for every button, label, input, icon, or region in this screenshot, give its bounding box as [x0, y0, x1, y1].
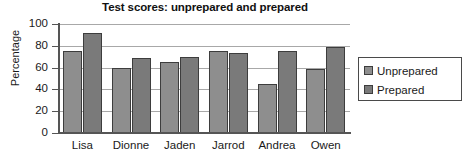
chart-title: Test scores: unprepared and prepared — [0, 1, 410, 13]
bar-prepared-jaden — [180, 57, 199, 133]
y-axis-tick-mark — [52, 111, 58, 112]
bar-prepared-dionne — [132, 58, 151, 133]
bar-prepared-owen — [326, 47, 345, 133]
y-axis-tick-label: 100 — [14, 18, 48, 30]
y-axis-tick-mark — [52, 68, 58, 69]
bar-prepared-jarrod — [229, 53, 248, 133]
y-axis-tick-mark — [52, 24, 58, 25]
y-axis-tick-label: 40 — [14, 83, 48, 95]
bar-chart: Test scores: unprepared and prepared Per… — [0, 0, 468, 163]
legend-label: Prepared — [377, 84, 424, 96]
x-axis-label-lisa: Lisa — [58, 139, 107, 151]
chart-legend: UnpreparedPrepared — [358, 57, 462, 101]
bar-prepared-lisa — [83, 33, 102, 133]
bar-unprepared-andrea — [258, 84, 277, 133]
y-axis-line — [58, 23, 60, 134]
legend-swatch-icon — [364, 66, 373, 75]
plot-area — [58, 24, 350, 133]
x-axis-line — [58, 132, 351, 134]
y-axis-tick-label: 60 — [14, 62, 48, 74]
y-axis-tick-labels: 020406080100 — [12, 0, 48, 163]
legend-label: Unprepared — [377, 65, 438, 77]
legend-swatch-icon — [364, 85, 373, 94]
bar-unprepared-dionne — [112, 68, 131, 133]
bar-unprepared-lisa — [63, 51, 82, 133]
y-axis-tick-mark — [52, 89, 58, 90]
y-axis-tick-label: 20 — [14, 105, 48, 117]
y-axis-tick-label: 0 — [14, 127, 48, 139]
legend-item-unprepared[interactable]: Unprepared — [364, 61, 461, 80]
legend-item-prepared[interactable]: Prepared — [364, 80, 461, 99]
x-axis-label-jarrod: Jarrod — [204, 139, 253, 151]
y-axis-tick-label: 80 — [14, 40, 48, 52]
x-axis-label-owen: Owen — [301, 139, 350, 151]
bar-unprepared-jarrod — [209, 51, 228, 133]
y-axis-tick-mark — [52, 46, 58, 47]
bar-prepared-andrea — [278, 51, 297, 133]
y-axis-tick-mark — [52, 133, 58, 134]
bar-unprepared-owen — [306, 69, 325, 133]
x-axis-label-andrea: Andrea — [253, 139, 302, 151]
x-axis-label-jaden: Jaden — [155, 139, 204, 151]
x-axis-label-dionne: Dionne — [107, 139, 156, 151]
gridline — [58, 24, 350, 25]
bar-unprepared-jaden — [160, 62, 179, 133]
